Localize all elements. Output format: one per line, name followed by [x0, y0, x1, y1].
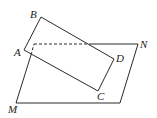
label-d: D: [115, 52, 124, 64]
edge-ab: [24, 17, 41, 50]
edge-dc: [98, 59, 114, 91]
rectangle-abcd: [24, 17, 114, 91]
label-a: A: [13, 46, 21, 58]
plane-left-edge-hidden: [31, 44, 34, 55]
label-n: N: [139, 38, 148, 50]
edge-bd: [41, 17, 114, 59]
label-m: M: [7, 103, 18, 115]
label-b: B: [30, 8, 37, 20]
plane-left-edge-visible: [16, 55, 31, 103]
edge-ca: [24, 50, 98, 91]
label-c: C: [97, 90, 105, 102]
geometry-diagram: B A D C N M: [0, 0, 157, 118]
